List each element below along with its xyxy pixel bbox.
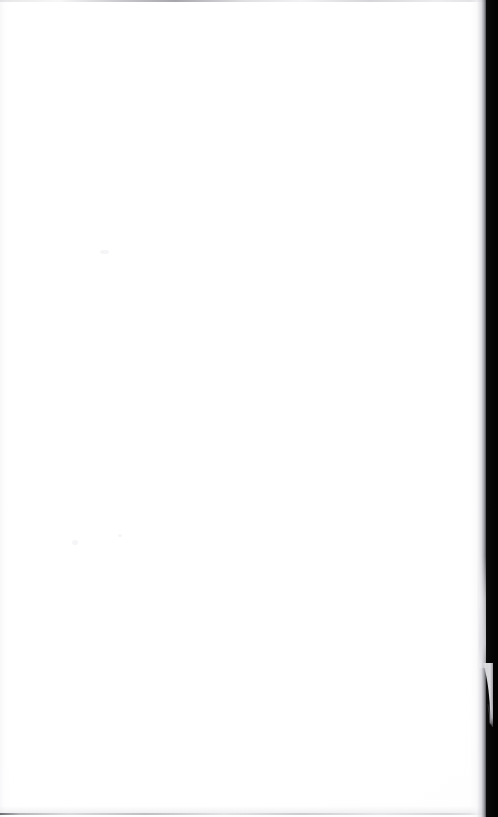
right-shadow-falloff [470,0,486,817]
scan-speck [118,534,122,537]
scan-speck [100,250,109,254]
top-edge-rule [0,0,486,2]
scan-speck [72,540,78,545]
left-edge-tint [0,0,10,817]
paper-surface [0,0,486,817]
curl-upper-haze [479,556,486,668]
scanner-gutter-band [486,0,498,817]
bottom-edge-rule [0,813,486,815]
scanned-page: Blank scanned page: an empty white sheet… [0,0,498,817]
bottom-edge-glow [0,806,486,813]
